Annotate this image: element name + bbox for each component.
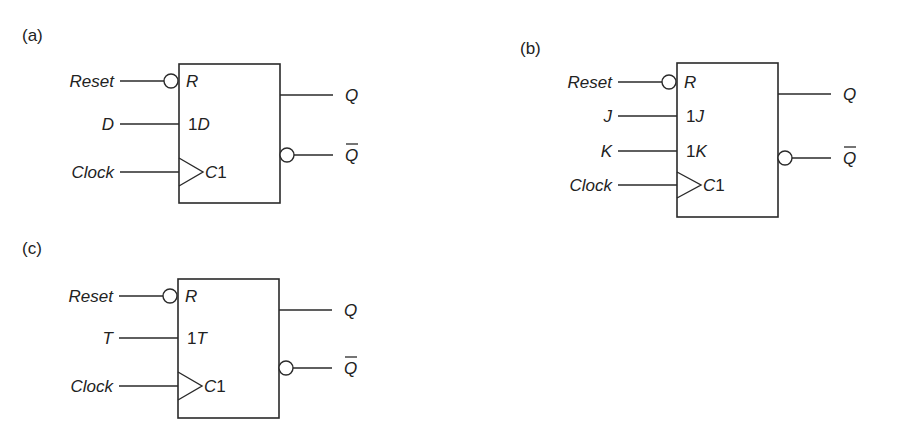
d-pin-label: 1D [188,115,210,134]
q-output: Q [279,301,357,320]
q-signal-label: Q [843,85,856,104]
q-bar-signal-label: Q [843,149,856,168]
reset-signal-label: Reset [69,287,115,306]
j-pin-label: 1J [686,107,704,126]
t-pin-label: 1T [187,329,208,348]
clock-pin-label: C1 [205,163,227,182]
reset-signal-label: Reset [70,72,116,91]
inversion-bubble-icon [164,74,178,88]
k-signal-label: K [601,142,613,161]
q-output: Q [280,86,358,105]
inversion-bubble-icon [163,289,177,303]
reset-pin-label: R [185,287,197,306]
t-signal-label: T [103,329,115,348]
panel-label-b: (b) [520,39,541,58]
clock-pin-label: C1 [204,377,226,396]
reset-pin-label: R [684,73,696,92]
clock-signal-label: Clock [70,377,114,396]
q-signal-label: Q [344,301,357,320]
inversion-bubble-icon [280,148,294,162]
k-pin-label: 1K [686,142,707,161]
panel-label-a: (a) [22,26,43,45]
j-input: J 1J [603,107,705,126]
q-bar-output: Q [280,144,358,165]
flip-flop-diagrams: (a) Reset R D 1D Clock C1 Q [0,0,897,435]
q-bar-signal-label: Q [345,146,358,165]
clock-signal-label: Clock [569,176,613,195]
clock-signal-label: Clock [71,163,115,182]
q-bar-signal-label: Q [344,359,357,378]
panel-a-d-flip-flop: (a) Reset R D 1D Clock C1 Q [22,26,358,203]
reset-signal-label: Reset [568,73,614,92]
d-input: D 1D [102,115,210,134]
inversion-bubble-icon [279,361,293,375]
t-input: T 1T [103,329,209,348]
panel-b-jk-flip-flop: (b) Reset R J 1J K 1K Clock C1 [520,39,856,217]
inversion-bubble-icon [662,75,676,89]
clock-pin-label: C1 [703,176,725,195]
j-signal-label: J [603,107,613,126]
inversion-bubble-icon [778,151,792,165]
q-bar-output: Q [279,357,357,378]
q-signal-label: Q [345,86,358,105]
d-signal-label: D [102,115,114,134]
panel-c-t-flip-flop: (c) Reset R T 1T Clock C1 Q [22,239,357,418]
k-input: K 1K [601,142,708,161]
reset-pin-label: R [186,72,198,91]
q-bar-output: Q [778,147,856,168]
q-output: Q [778,85,856,104]
panel-label-c: (c) [22,239,42,258]
